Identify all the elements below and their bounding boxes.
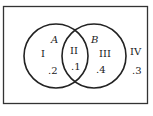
region-iii-value: .4 [96, 64, 106, 75]
region-i-label: I [41, 48, 45, 59]
set-b-label: B [90, 34, 98, 45]
region-ii-label: II [70, 45, 78, 56]
region-iv-label: IV [130, 46, 142, 57]
region-ii-value: .1 [71, 61, 81, 72]
region-i-value: .2 [48, 65, 58, 76]
region-iii-label: III [99, 48, 111, 59]
set-a-label: A [50, 34, 58, 45]
venn-diagram: A B I .2 II .1 III .4 IV .3 [0, 0, 153, 116]
region-iv-value: .3 [132, 65, 142, 76]
